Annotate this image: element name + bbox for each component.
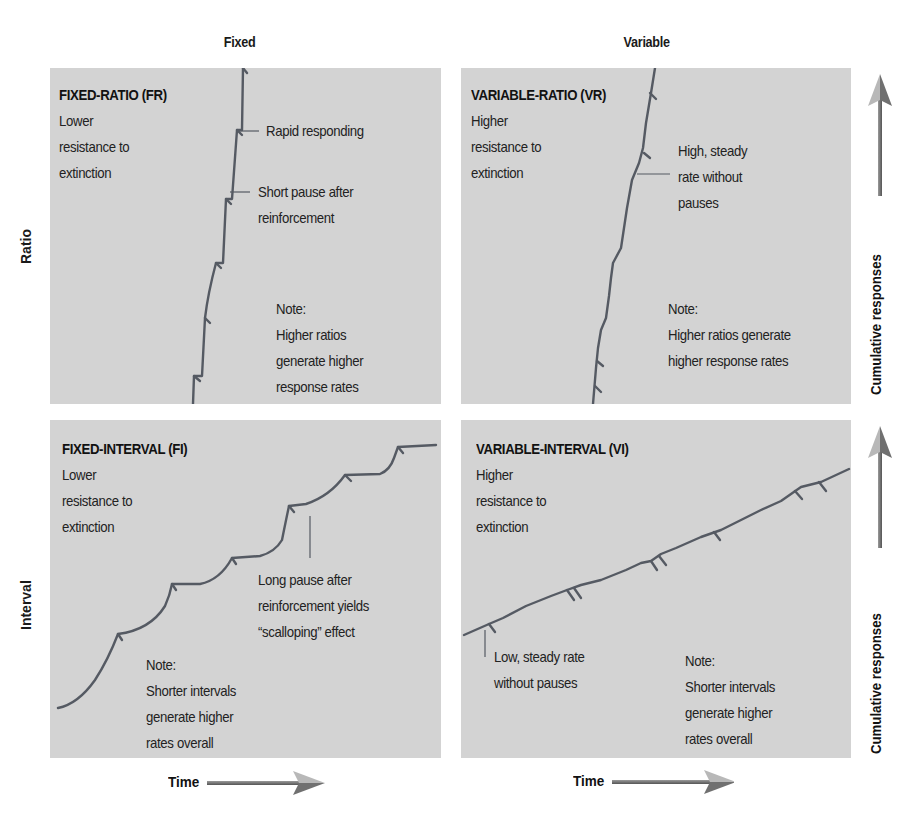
vr-callout-high-steady: High, steady rate without pauses (678, 138, 747, 216)
time-arrow-icon-fixed (207, 769, 329, 797)
fi-title: FIXED-INTERVAL (FI) (62, 436, 187, 462)
x-axis-label-variable: Time (573, 772, 604, 789)
panel-fixed-ratio: FIXED-RATIO (FR) Lower resistance to ext… (50, 68, 441, 404)
panel-fixed-interval: FIXED-INTERVAL (FI) Lower resistance to … (50, 420, 441, 758)
fr-callout-short-pause: Short pause after reinforcement (258, 179, 353, 231)
cumulative-responses-arrow-icon-top (866, 68, 894, 198)
panel-variable-interval: VARIABLE-INTERVAL (VI) Higher resistance… (461, 420, 851, 758)
y-axis-label-ratio: Cumulative responses (867, 254, 884, 395)
column-header-variable: Variable (624, 34, 670, 50)
row-header-interval: Interval (18, 580, 34, 630)
vi-description: Higher resistance to extinction (476, 462, 546, 540)
y-axis-label-interval: Cumulative responses (867, 613, 884, 754)
vr-title: VARIABLE-RATIO (VR) (471, 82, 606, 108)
column-header-fixed: Fixed (224, 34, 256, 50)
fi-note: Note: Shorter intervals generate higher … (146, 652, 236, 756)
vr-note: Note: Higher ratios generate higher resp… (668, 296, 791, 374)
row-header-ratio: Ratio (18, 229, 34, 264)
fr-callout-rapid-responding: Rapid responding (266, 118, 364, 144)
time-arrow-icon-variable (612, 768, 734, 796)
vr-description: Higher resistance to extinction (471, 108, 541, 186)
vi-callout-low-steady: Low, steady rate without pauses (494, 644, 585, 696)
fi-description: Lower resistance to extinction (62, 462, 132, 540)
panel-variable-ratio: VARIABLE-RATIO (VR) Higher resistance to… (461, 68, 851, 404)
fr-title: FIXED-RATIO (FR) (59, 82, 167, 108)
vi-note: Note: Shorter intervals generate higher … (685, 648, 775, 752)
fr-description: Lower resistance to extinction (59, 108, 129, 186)
x-axis-label-fixed: Time (168, 773, 199, 790)
vi-title: VARIABLE-INTERVAL (VI) (476, 436, 629, 462)
cumulative-responses-arrow-icon-bottom (866, 420, 894, 550)
fr-note: Note: Higher ratios generate higher resp… (276, 296, 363, 400)
fi-callout-long-pause: Long pause after reinforcement yields “s… (258, 567, 369, 645)
